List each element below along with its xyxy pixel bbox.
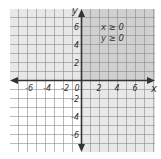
svg-text:-6: -6 bbox=[71, 131, 79, 140]
inequality-y: y ≥ 0 bbox=[100, 33, 124, 43]
svg-text:2: 2 bbox=[96, 84, 101, 93]
x-axis-label: x bbox=[150, 83, 157, 94]
svg-text:-4: -4 bbox=[43, 84, 51, 93]
inequality-labels: x ≥ 0 y ≥ 0 bbox=[100, 22, 124, 43]
svg-text:2: 2 bbox=[74, 59, 79, 68]
svg-text:6: 6 bbox=[74, 23, 79, 32]
svg-text:0: 0 bbox=[74, 84, 79, 93]
svg-text:4: 4 bbox=[114, 84, 119, 93]
y-axis-label: y bbox=[71, 5, 79, 16]
svg-text:-6: -6 bbox=[25, 84, 33, 93]
inequality-x: x ≥ 0 bbox=[100, 22, 124, 32]
svg-text:-2: -2 bbox=[61, 84, 69, 93]
svg-text:-2: -2 bbox=[71, 95, 79, 104]
svg-text:4: 4 bbox=[74, 41, 79, 50]
svg-text:-4: -4 bbox=[71, 113, 79, 122]
svg-text:6: 6 bbox=[132, 84, 137, 93]
coordinate-plane: x y -6 -4 -2 0 2 4 6 6 4 2 -2 -4 -6 x ≥ … bbox=[0, 0, 161, 159]
